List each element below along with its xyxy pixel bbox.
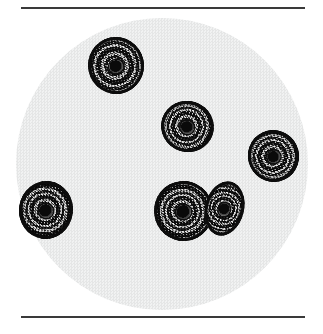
photomicrograph-figure: [0, 0, 323, 334]
micrograph-field-container: [0, 0, 323, 334]
bottom-horizontal-rule: [21, 316, 305, 318]
